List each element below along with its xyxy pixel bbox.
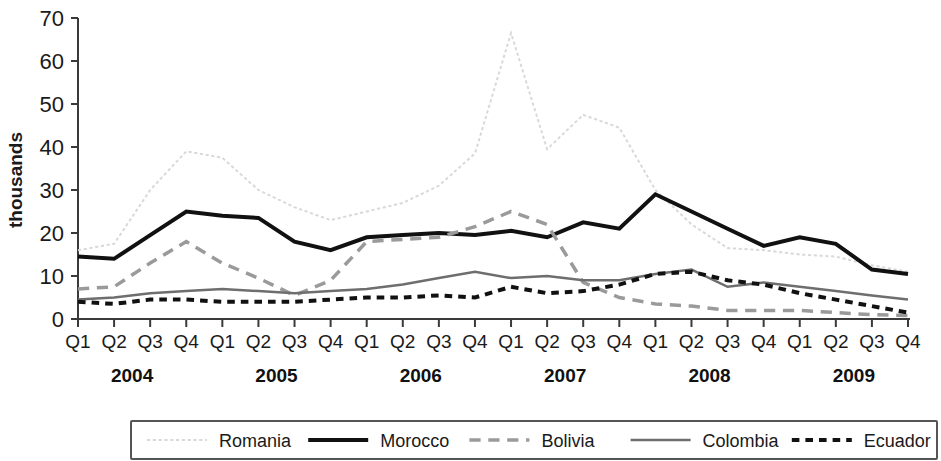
x-tick-label: Q2 bbox=[679, 331, 704, 352]
series-line-morocco bbox=[78, 194, 908, 274]
x-tick-label: Q4 bbox=[318, 331, 344, 352]
line-chart: 010203040506070 Q1Q2Q3Q4Q1Q2Q3Q4Q1Q2Q3Q4… bbox=[0, 0, 941, 461]
x-tick-label: Q3 bbox=[715, 331, 740, 352]
legend-label-bolivia[interactable]: Bolivia bbox=[541, 431, 595, 451]
y-tick-label: 10 bbox=[40, 264, 64, 289]
x-tick-label: Q1 bbox=[787, 331, 812, 352]
x-tick-label: Q3 bbox=[137, 331, 162, 352]
x-tick-label: Q4 bbox=[751, 331, 777, 352]
x-tick-label: Q2 bbox=[101, 331, 126, 352]
x-tick-label: Q2 bbox=[246, 331, 271, 352]
y-tick-label: 20 bbox=[40, 221, 64, 246]
x-tick-label: Q2 bbox=[534, 331, 559, 352]
x-tick-label: Q3 bbox=[571, 331, 596, 352]
x-tick-label: Q3 bbox=[426, 331, 451, 352]
x-tick-label: Q4 bbox=[174, 331, 200, 352]
series-line-colombia bbox=[78, 270, 908, 300]
series-line-romania bbox=[78, 33, 908, 272]
x-tick-label: Q2 bbox=[823, 331, 848, 352]
x-tick-label: Q1 bbox=[643, 331, 668, 352]
legend-label-ecuador[interactable]: Ecuador bbox=[864, 431, 931, 451]
x-tick-label: Q4 bbox=[895, 331, 921, 352]
x-tick-label: Q1 bbox=[354, 331, 379, 352]
y-tick-label: 0 bbox=[52, 307, 64, 332]
x-tick-label: Q4 bbox=[462, 331, 488, 352]
x-group-label: 2005 bbox=[255, 365, 298, 386]
x-tick-label: Q3 bbox=[859, 331, 884, 352]
series-line-ecuador bbox=[78, 272, 908, 313]
x-tick-label: Q3 bbox=[282, 331, 307, 352]
y-tick-label: 60 bbox=[40, 49, 64, 74]
x-tick-label: Q4 bbox=[607, 331, 633, 352]
x-tick-label: Q1 bbox=[210, 331, 235, 352]
x-group-label: 2004 bbox=[111, 365, 154, 386]
y-tick-label: 40 bbox=[40, 135, 64, 160]
y-tick-label: 50 bbox=[40, 92, 64, 117]
x-tick-label: Q1 bbox=[498, 331, 523, 352]
y-tick-label: 70 bbox=[40, 6, 64, 31]
x-tick-label: Q2 bbox=[390, 331, 415, 352]
y-axis: 010203040506070 bbox=[40, 6, 78, 332]
legend-label-morocco[interactable]: Morocco bbox=[380, 431, 449, 451]
legend-label-colombia[interactable]: Colombia bbox=[703, 431, 780, 451]
chart-legend: RomaniaMoroccoBoliviaColombiaEcuador bbox=[131, 421, 937, 459]
x-group-label: 2009 bbox=[833, 365, 875, 386]
x-axis: Q1Q2Q3Q4Q1Q2Q3Q4Q1Q2Q3Q4Q1Q2Q3Q4Q1Q2Q3Q4… bbox=[65, 319, 921, 386]
legend-label-romania[interactable]: Romania bbox=[219, 431, 292, 451]
y-tick-label: 30 bbox=[40, 178, 64, 203]
series-lines bbox=[78, 33, 908, 316]
x-group-label: 2007 bbox=[544, 365, 586, 386]
x-tick-label: Q1 bbox=[65, 331, 90, 352]
x-group-label: 2008 bbox=[688, 365, 730, 386]
x-group-label: 2006 bbox=[400, 365, 442, 386]
y-axis-title: thousands bbox=[5, 132, 26, 228]
